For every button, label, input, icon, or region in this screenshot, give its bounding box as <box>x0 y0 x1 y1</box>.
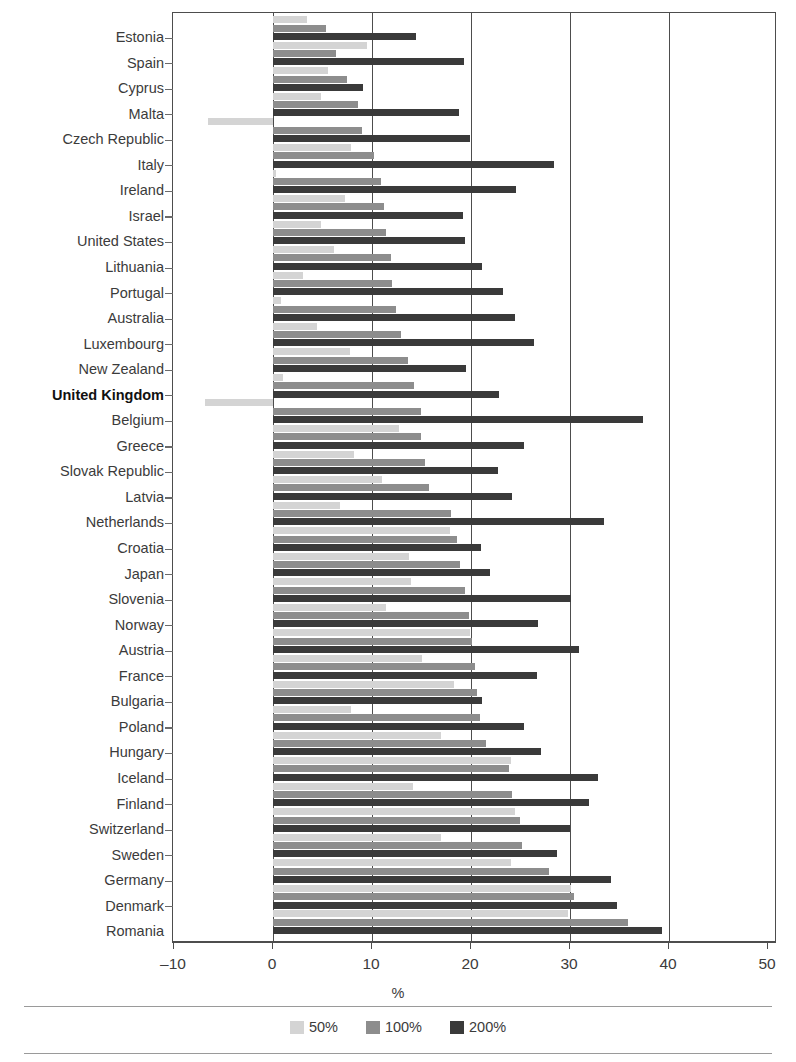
bar-50pct <box>273 425 399 432</box>
bar-200pct <box>273 109 459 116</box>
bar-100pct <box>273 510 451 517</box>
legend-swatch <box>290 1021 304 1034</box>
category-label: Netherlands <box>0 515 164 530</box>
y-axis-tick <box>165 89 173 90</box>
bar-50pct <box>273 170 276 177</box>
category-label: Poland <box>0 720 164 735</box>
y-axis-tick <box>165 497 173 498</box>
bar-100pct <box>273 25 326 32</box>
bar-50pct <box>273 706 351 713</box>
x-axis-tick <box>272 941 273 949</box>
category-label: Latvia <box>0 490 164 505</box>
category-label: Bulgaria <box>0 694 164 709</box>
bar-100pct <box>273 127 362 134</box>
bar-200pct <box>273 518 604 525</box>
bar-50pct <box>273 910 568 917</box>
bar-200pct <box>273 135 470 142</box>
category-label: Sweden <box>0 848 164 863</box>
category-label: Portugal <box>0 286 164 301</box>
bar-50pct <box>273 502 340 509</box>
category-label: Estonia <box>0 30 164 45</box>
y-axis-tick <box>165 855 173 856</box>
category-label: United States <box>0 234 164 249</box>
bar-200pct <box>273 467 498 474</box>
bar-100pct <box>273 178 381 185</box>
bar-100pct <box>273 765 509 772</box>
bar-200pct <box>273 263 482 270</box>
x-axis-tick <box>470 941 471 949</box>
y-axis-tick <box>165 906 173 907</box>
y-axis-tick <box>165 472 173 473</box>
bar-200pct <box>273 416 643 423</box>
bar-200pct <box>273 442 524 449</box>
y-axis-tick <box>165 804 173 805</box>
x-axis-title: % <box>0 985 796 1001</box>
category-label: Denmark <box>0 899 164 914</box>
y-axis-tick <box>165 191 173 192</box>
bar-50pct <box>273 476 382 483</box>
bar-200pct <box>273 33 416 40</box>
category-label: Slovak Republic <box>0 464 164 479</box>
legend-rule-bottom <box>24 1053 772 1054</box>
bar-100pct <box>273 893 574 900</box>
bar-50pct <box>273 144 351 151</box>
legend-label: 200% <box>469 1019 506 1035</box>
y-axis-tick <box>165 63 173 64</box>
category-label: Ireland <box>0 183 164 198</box>
bar-50pct <box>273 578 411 585</box>
y-axis-tick <box>165 574 173 575</box>
bar-50pct <box>208 118 273 125</box>
bar-chart-figure: EstoniaSpainCyprusMaltaCzech RepublicIta… <box>0 0 796 1062</box>
bar-100pct <box>273 382 414 389</box>
bar-50pct <box>273 834 441 841</box>
y-axis-tick <box>165 830 173 831</box>
x-axis-tick <box>371 941 372 949</box>
bar-100pct <box>273 229 386 236</box>
bar-200pct <box>273 748 541 755</box>
category-label: Lithuania <box>0 260 164 275</box>
legend-rule-top <box>24 1006 772 1007</box>
category-label: Israel <box>0 209 164 224</box>
category-label: Germany <box>0 873 164 888</box>
bar-50pct <box>273 67 328 74</box>
bar-200pct <box>273 237 465 244</box>
bar-100pct <box>273 689 477 696</box>
bar-100pct <box>273 306 396 313</box>
category-label: Czech Republic <box>0 132 164 147</box>
bar-200pct <box>273 391 499 398</box>
legend-swatch <box>450 1021 464 1034</box>
y-axis-tick <box>165 702 173 703</box>
bar-100pct <box>273 791 512 798</box>
bar-100pct <box>273 459 425 466</box>
category-label: Japan <box>0 567 164 582</box>
category-label: Finland <box>0 797 164 812</box>
category-label: Croatia <box>0 541 164 556</box>
bar-200pct <box>273 84 363 91</box>
y-axis-tick <box>165 140 173 141</box>
bar-50pct <box>273 374 283 381</box>
y-axis-tick <box>165 779 173 780</box>
bar-200pct <box>273 161 554 168</box>
bar-200pct <box>273 672 537 679</box>
bar-50pct <box>273 323 317 330</box>
bar-100pct <box>273 76 347 83</box>
bar-100pct <box>273 842 522 849</box>
bar-50pct <box>273 527 450 534</box>
bar-50pct <box>273 93 321 100</box>
category-label: Luxembourg <box>0 337 164 352</box>
bar-50pct <box>273 681 454 688</box>
bar-50pct <box>273 885 571 892</box>
category-label: Slovenia <box>0 592 164 607</box>
bar-100pct <box>273 663 475 670</box>
bar-100pct <box>273 331 401 338</box>
x-axis-tick <box>767 941 768 949</box>
bar-100pct <box>273 868 549 875</box>
category-label: Norway <box>0 618 164 633</box>
y-axis-tick <box>165 344 173 345</box>
bar-100pct <box>273 433 421 440</box>
y-axis-tick <box>165 293 173 294</box>
x-axis-tick-label: 20 <box>461 955 478 973</box>
x-axis-tick-label: –10 <box>160 955 186 973</box>
bar-200pct <box>273 493 512 500</box>
bar-200pct <box>273 314 515 321</box>
